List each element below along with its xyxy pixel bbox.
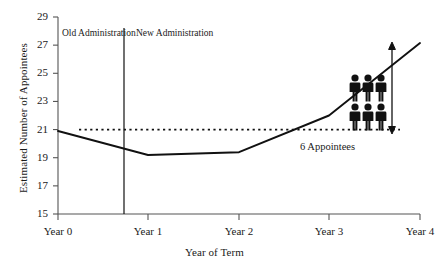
y-tick-label-19: 19 — [14, 151, 48, 163]
old-administration-text: Old Administration — [62, 28, 136, 38]
old-administration-label: Old Administration — [62, 28, 120, 39]
person-icon — [376, 74, 387, 101]
x-axis-title: Year of Term — [0, 246, 429, 258]
new-administration-label: New Administration — [136, 28, 212, 39]
person-icon — [363, 74, 374, 101]
y-tick-label-27: 27 — [14, 38, 48, 50]
y-tick-label-15: 15 — [14, 207, 48, 219]
y-axis-ticks — [53, 17, 58, 214]
x-tick-label-year-1: Year 1 — [113, 225, 183, 237]
person-icon — [363, 103, 374, 130]
y-tick-label-21: 21 — [14, 123, 48, 135]
x-tick-label-year-3: Year 3 — [294, 225, 364, 237]
appointees-annotation-label: 6 Appointees — [300, 141, 355, 152]
person-icon — [350, 103, 361, 130]
x-axis-ticks — [58, 214, 420, 220]
new-administration-text: New Administration — [136, 28, 213, 38]
y-tick-label-29: 29 — [14, 10, 48, 22]
pictogram-group — [350, 74, 387, 130]
person-icon — [376, 103, 387, 130]
x-tick-label-year-0: Year 0 — [23, 225, 93, 237]
y-tick-label-25: 25 — [14, 66, 48, 78]
x-tick-label-year-4: Year 4 — [385, 225, 439, 237]
y-tick-label-23: 23 — [14, 94, 48, 106]
y-tick-label-17: 17 — [14, 179, 48, 191]
span-arrow — [389, 42, 396, 134]
x-tick-label-year-2: Year 2 — [204, 225, 274, 237]
